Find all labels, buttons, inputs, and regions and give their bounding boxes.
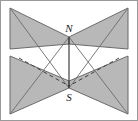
north-pole-label: N [64,22,73,34]
figure-container: N S [0,0,138,121]
south-pole-label: S [66,91,72,103]
bowtie-planes-diagram: N S [0,0,138,121]
